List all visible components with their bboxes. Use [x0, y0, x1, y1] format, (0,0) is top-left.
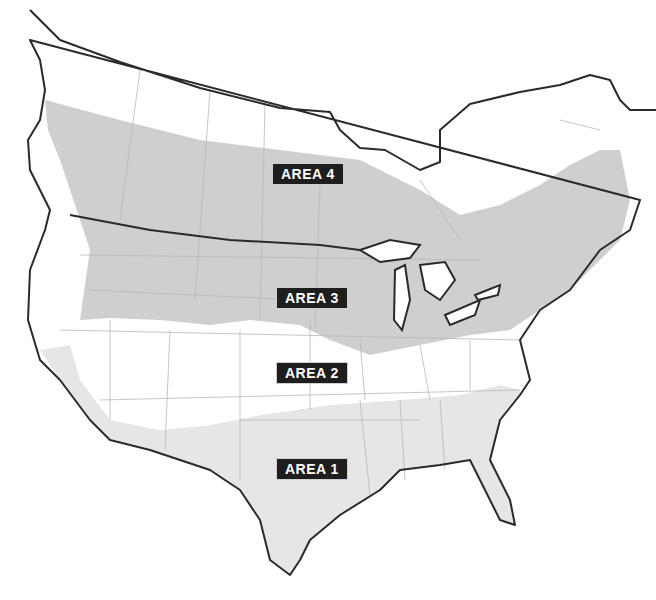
area-4-label: AREA 4 — [272, 163, 344, 185]
area-1-label: AREA 1 — [276, 458, 348, 480]
area-3-label: AREA 3 — [276, 287, 348, 309]
area-2-label: AREA 2 — [276, 362, 348, 384]
